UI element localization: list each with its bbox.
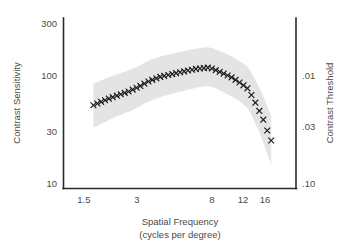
x-axis-title: Spatial Frequency [142,216,219,227]
y-tick-label: 300 [41,18,57,29]
y2-tick-label: .10 [302,178,315,189]
y2-tick-label: .01 [302,70,315,81]
y2-axis-title: Contrast Threshold [324,63,335,144]
y2-tick-label: .03 [302,121,315,132]
x-tick-label: 8 [209,194,214,205]
chart-canvas: 1030100300 .01.03.10 1.5381216 Contrast … [0,0,348,252]
x-tick-label: 3 [134,194,139,205]
x-tick-label: 1.5 [77,194,90,205]
y-tick-label: 100 [41,70,57,81]
x-tick-label: 16 [260,194,271,205]
y-tick-label: 30 [46,126,57,137]
contrast-sensitivity-figure: 1030100300 .01.03.10 1.5381216 Contrast … [0,0,348,252]
x-axis-subtitle: (cycles per degree) [139,229,220,240]
x-tick-label: 12 [238,194,249,205]
y-tick-label: 10 [46,178,57,189]
y-axis-title: Contrast Sensitivity [11,62,22,144]
